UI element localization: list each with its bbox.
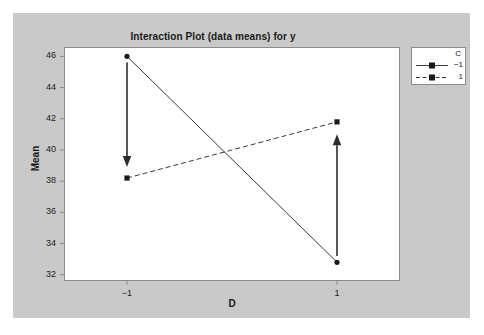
legend-item-series-1[interactable]: −1 <box>412 60 467 71</box>
legend-label-series-1: −1 <box>454 60 463 69</box>
axis-ticks <box>60 56 337 285</box>
series-line <box>127 56 337 262</box>
y-tick-label: 44 <box>30 82 56 92</box>
data-point-marker <box>334 260 339 265</box>
legend-title: C <box>455 49 461 58</box>
legend-label-series-2: 1 <box>459 72 463 81</box>
figure-panel: Interaction Plot (data means) for y 3234… <box>13 13 470 318</box>
x-tick-label: 1 <box>317 288 357 298</box>
data-point-marker <box>124 175 129 180</box>
legend-swatch-solid-line <box>415 60 449 71</box>
legend-item-series-2[interactable]: 1 <box>412 72 467 83</box>
legend-swatch-dashed-line <box>415 72 449 83</box>
x-tick-label: −1 <box>107 288 147 298</box>
legend-box[interactable]: C −1 1 <box>411 47 466 85</box>
y-tick-label: 42 <box>30 113 56 123</box>
y-tick-label: 34 <box>30 238 56 248</box>
y-tick-label: 36 <box>30 206 56 216</box>
annotation-arrow-head <box>123 156 131 167</box>
y-axis-title: Mean <box>30 129 41 189</box>
y-tick-label: 46 <box>30 50 56 60</box>
x-axis-title: D <box>64 298 400 309</box>
data-series-group <box>124 54 339 265</box>
annotation-arrow-head <box>333 134 341 145</box>
data-point-marker <box>124 54 129 59</box>
data-point-marker <box>334 119 339 124</box>
series-line <box>127 122 337 178</box>
plot-svg <box>13 13 470 318</box>
y-tick-label: 32 <box>30 269 56 279</box>
